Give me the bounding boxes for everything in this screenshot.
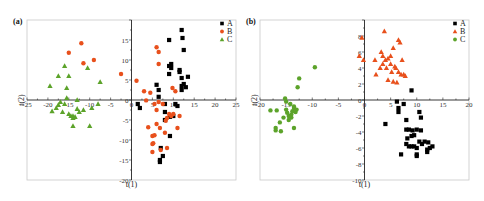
data-point-square [399, 152, 403, 156]
y-tick-label: -4 [356, 129, 362, 137]
data-point-circle [81, 61, 85, 65]
data-point-circle [152, 133, 156, 137]
data-point-square [163, 110, 167, 114]
data-point-circle [156, 100, 160, 104]
data-point-triangle [62, 63, 67, 68]
data-point-square [167, 72, 171, 76]
data-point-triangle [453, 29, 458, 33]
x-tick-label: 5 [389, 101, 393, 109]
data-point-square [396, 110, 400, 114]
data-point-circle [119, 72, 123, 76]
data-point-circle [220, 30, 224, 34]
data-point-circle [144, 98, 148, 102]
data-point-circle [173, 89, 177, 93]
data-point-square [417, 110, 421, 114]
data-point-circle [154, 108, 158, 112]
data-point-circle [142, 89, 146, 93]
data-point-square [407, 128, 411, 132]
data-point-triangle [385, 77, 390, 82]
x-tick-label: -10 [85, 101, 95, 109]
data-point-circle [313, 65, 317, 69]
data-point-circle [151, 141, 155, 145]
x-axis-label: t(1) [126, 180, 138, 189]
y-tick-label: 5 [125, 77, 129, 85]
legend-label: C [460, 35, 465, 44]
data-point-triangle [391, 45, 396, 50]
data-point-square [422, 140, 426, 144]
data-point-triangle [388, 53, 393, 58]
data-point-circle [148, 91, 152, 95]
data-point-triangle [95, 101, 100, 106]
y-tick-label: -6 [356, 145, 362, 153]
data-point-square [410, 128, 414, 132]
data-point-square [415, 128, 419, 132]
data-point-circle [154, 122, 158, 126]
data-point-square [184, 85, 188, 89]
data-point-square [136, 102, 140, 106]
data-point-square [182, 48, 186, 52]
data-point-triangle [85, 65, 90, 70]
x-tick-label: -5 [335, 101, 341, 109]
data-point-triangle [56, 73, 61, 78]
data-point-triangle [388, 61, 393, 66]
data-point-square [419, 128, 423, 132]
y-axis-label: t(2) [250, 94, 259, 106]
x-tick-label: 15 [191, 101, 199, 109]
data-point-square [157, 95, 161, 99]
panel-label: (b) [246, 17, 256, 26]
data-point-square [186, 75, 190, 79]
data-point-square [430, 144, 434, 148]
data-point-square [453, 22, 457, 26]
data-point-square [383, 122, 387, 126]
data-point-square [419, 116, 423, 120]
x-tick-label: -10 [308, 101, 318, 109]
data-point-triangle [49, 108, 54, 113]
data-point-square [405, 136, 409, 140]
data-point-circle [158, 126, 162, 130]
data-point-square [177, 70, 181, 74]
data-point-circle [152, 102, 156, 106]
data-point-square [396, 106, 400, 110]
y-tick-label: -8 [356, 161, 362, 169]
data-point-circle [134, 79, 138, 83]
data-point-circle [156, 62, 160, 66]
legend: ABC [220, 19, 233, 44]
data-point-square [180, 36, 184, 40]
y-tick-label: -5 [123, 117, 129, 125]
data-point-circle [163, 131, 167, 135]
figure: -25-20-15-10-50510152025-20-15-10-505101… [0, 0, 484, 201]
data-point-square [395, 100, 399, 104]
data-point-circle [289, 115, 293, 119]
data-point-circle [159, 148, 163, 152]
data-point-circle [171, 112, 175, 116]
data-point-square [154, 83, 158, 87]
x-tick-label: -20 [43, 101, 53, 109]
y-tick-label: -15 [119, 157, 129, 165]
data-point-circle [292, 126, 296, 130]
data-point-circle [278, 120, 282, 124]
data-point-square [157, 88, 161, 92]
data-point-circle [279, 129, 283, 133]
y-tick-label: -2 [356, 113, 362, 121]
data-point-triangle [379, 49, 384, 54]
series-C [268, 65, 317, 133]
data-point-circle [92, 58, 96, 62]
data-point-square [180, 88, 184, 92]
data-point-circle [284, 99, 288, 103]
scatter-panel-a: -25-20-15-10-50510152025-20-15-10-505101… [13, 17, 240, 189]
data-point-circle [79, 41, 83, 45]
data-point-circle [165, 116, 169, 120]
data-point-circle [175, 126, 179, 130]
data-point-square [158, 160, 162, 164]
x-tick-label: 15 [439, 101, 447, 109]
data-point-square [180, 76, 184, 80]
data-point-triangle [372, 57, 377, 62]
y-tick-label: 2 [358, 81, 362, 89]
data-point-triangle [373, 72, 378, 77]
data-point-circle [288, 102, 292, 106]
data-point-square [168, 134, 172, 138]
x-tick-label: 0 [130, 101, 134, 109]
legend: ABC [453, 19, 466, 44]
x-axis-label: t(1) [359, 180, 371, 189]
data-point-circle [150, 150, 154, 154]
